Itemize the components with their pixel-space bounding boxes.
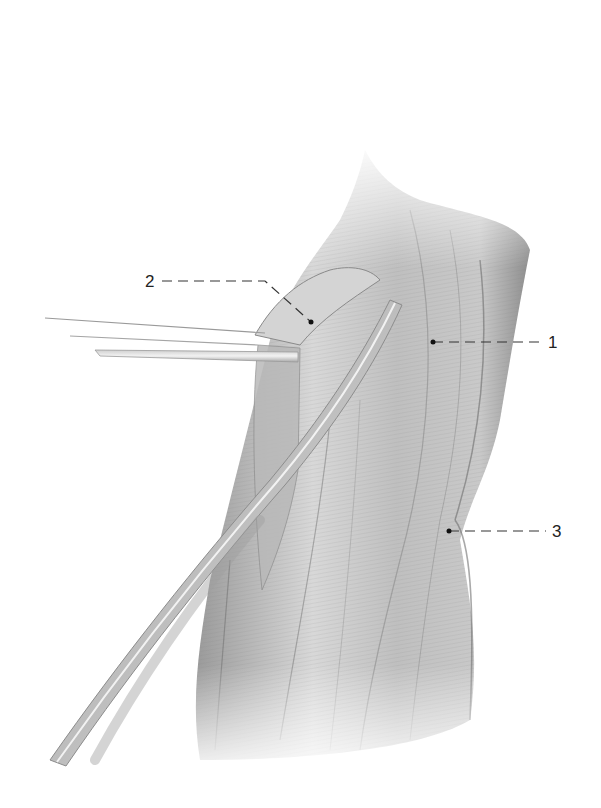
anatomical-figure [0,0,601,808]
label-2: 2 [145,273,154,290]
pointer-dot-2 [309,320,314,325]
pointer-dot-3 [447,529,452,534]
pointer-dot-1 [431,340,436,345]
main-muscle [180,140,550,780]
label-1: 1 [548,334,557,351]
label-3: 3 [552,523,561,540]
